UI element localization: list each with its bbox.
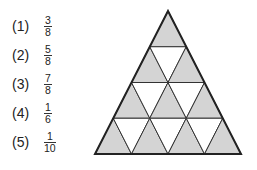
triangle-grid — [95, 11, 241, 154]
shaded-triangle — [150, 11, 187, 47]
triangle-figure — [0, 0, 257, 170]
